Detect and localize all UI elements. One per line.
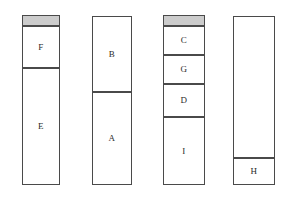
segment-d: D	[163, 84, 205, 117]
segment-label: B	[109, 50, 115, 59]
segment-label: D	[181, 96, 188, 105]
segment-a: A	[92, 92, 132, 185]
column-2: BA	[92, 0, 132, 198]
segment-label: F	[38, 43, 43, 52]
segment-g: G	[163, 55, 205, 84]
segment-unlabeled	[233, 16, 275, 158]
segment-f: F	[22, 26, 60, 68]
segment-b: B	[92, 16, 132, 92]
segment-label: G	[181, 65, 188, 74]
segment-label: I	[182, 147, 185, 156]
segment-e: E	[22, 68, 60, 185]
segment-label: C	[181, 36, 187, 45]
segment-cap	[22, 15, 60, 26]
segment-label: E	[38, 122, 44, 131]
segment-i: I	[163, 117, 205, 185]
segment-label: H	[251, 167, 258, 176]
segment-c: C	[163, 26, 205, 55]
segment-label: A	[109, 134, 116, 143]
column-4: H	[233, 0, 275, 198]
diagram-canvas: FEBACGDIH	[0, 0, 284, 198]
segment-h: H	[233, 158, 275, 185]
column-3: CGDI	[163, 0, 205, 198]
segment-cap	[163, 15, 205, 26]
column-1: FE	[22, 0, 60, 198]
